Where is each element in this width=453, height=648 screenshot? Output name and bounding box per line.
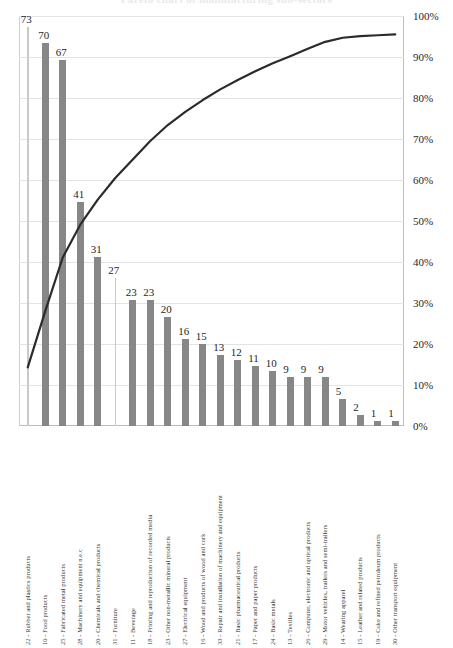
- x-label-slot: 33 - Repair and installation of machiner…: [212, 430, 230, 645]
- x-axis-label: 33 - Repair and installation of machiner…: [217, 430, 223, 645]
- y2-tick-label: 60%: [413, 175, 433, 186]
- x-axis-label: 23 - Other non-metallic mineral products: [165, 430, 171, 645]
- x-axis-label: 16 - Wood and products of wood and cork: [200, 430, 206, 645]
- y2-tick-label: 10%: [413, 380, 433, 391]
- x-label-slot: 31 - Furniture: [107, 430, 125, 645]
- x-axis-label: 11 - Beverage: [130, 430, 136, 645]
- x-label-slot: 11 - Beverage: [124, 430, 142, 645]
- x-axis-category-labels: 22 - Rubber and plastics products10 - Fo…: [19, 430, 404, 645]
- x-axis-label: 13 - Textiles: [287, 430, 293, 645]
- x-label-slot: 26 - Computer, electronic and optical pr…: [299, 430, 317, 645]
- y2-tick-label: 20%: [413, 339, 433, 350]
- x-label-slot: 15 - Leather and related products: [352, 430, 370, 645]
- x-label-slot: 28 - Machinery and equipment n.e.c: [72, 430, 90, 645]
- x-label-slot: 23 - Other non-metallic mineral products: [159, 430, 177, 645]
- pareto-chart: Pareto chart of manufacturing sub-sector…: [0, 0, 453, 648]
- y2-tick-label: 0%: [413, 421, 428, 432]
- x-axis-label: 15 - Leather and related products: [357, 430, 363, 645]
- x-axis-label: 22 - Rubber and plastics products: [25, 430, 31, 645]
- x-label-slot: 29 - Motor vehicles, trailers and semi-t…: [317, 430, 335, 645]
- plot-area: 7370674131272323201615131211109995211: [19, 16, 404, 426]
- x-axis-label: 19 - Coke and refined petroleum products: [375, 430, 381, 645]
- x-label-slot: 25 - Fabricated metal products: [54, 430, 72, 645]
- x-label-slot: 30 - Other transport equipment: [387, 430, 405, 645]
- x-axis-label: 24 - Basic metals: [270, 430, 276, 645]
- chart-title: Pareto chart of manufacturing sub-sector…: [0, 0, 453, 5]
- x-axis-label: 18 - Printing and reproduction of record…: [147, 430, 153, 645]
- x-axis-label: 20 - Chemicals and chemical products: [95, 430, 101, 645]
- x-axis-label: 25 - Fabricated metal products: [60, 430, 66, 645]
- cumulative-line-series: [19, 16, 404, 426]
- x-axis-label: 21 - Basic pharmaceutical products: [235, 430, 241, 645]
- y2-tick-label: 50%: [413, 216, 433, 227]
- x-label-slot: 17 - Paper and paper products: [247, 430, 265, 645]
- x-axis-label: 28 - Machinery and equipment n.e.c: [77, 430, 83, 645]
- x-axis-label: 31 - Furniture: [112, 430, 118, 645]
- y2-tick-label: 70%: [413, 134, 433, 145]
- x-label-slot: 10 - Food products: [37, 430, 55, 645]
- x-label-slot: 18 - Printing and reproduction of record…: [142, 430, 160, 645]
- y2-tick-label: 30%: [413, 298, 433, 309]
- x-axis-label: 26 - Computer, electronic and optical pr…: [305, 430, 311, 645]
- x-label-slot: 22 - Rubber and plastics products: [19, 430, 37, 645]
- x-label-slot: 14 - Wearing apparel: [334, 430, 352, 645]
- x-label-slot: 27 - Electrical equipment: [177, 430, 195, 645]
- x-axis-label: 10 - Food products: [42, 430, 48, 645]
- x-label-slot: 24 - Basic metals: [264, 430, 282, 645]
- cumulative-line: [28, 34, 396, 367]
- x-axis-label: 14 - Wearing apparel: [340, 430, 346, 645]
- x-axis-label: 27 - Electrical equipment: [182, 430, 188, 645]
- x-label-slot: 20 - Chemicals and chemical products: [89, 430, 107, 645]
- y2-tick-label: 100%: [413, 11, 439, 22]
- x-axis-label: 29 - Motor vehicles, trailers and semi-t…: [322, 430, 328, 645]
- x-axis-label: 30 - Other transport equipment: [392, 430, 398, 645]
- x-axis-label: 17 - Paper and paper products: [252, 430, 258, 645]
- y2-tick-label: 90%: [413, 52, 433, 63]
- y2-tick-label: 40%: [413, 257, 433, 268]
- y2-tick-label: 80%: [413, 93, 433, 104]
- x-label-slot: 21 - Basic pharmaceutical products: [229, 430, 247, 645]
- y2-axis-ticks: 100%90%80%70%60%50%40%30%20%10%0%: [409, 16, 453, 426]
- x-label-slot: 13 - Textiles: [282, 430, 300, 645]
- x-label-slot: 19 - Coke and refined petroleum products: [369, 430, 387, 645]
- x-label-slot: 16 - Wood and products of wood and cork: [194, 430, 212, 645]
